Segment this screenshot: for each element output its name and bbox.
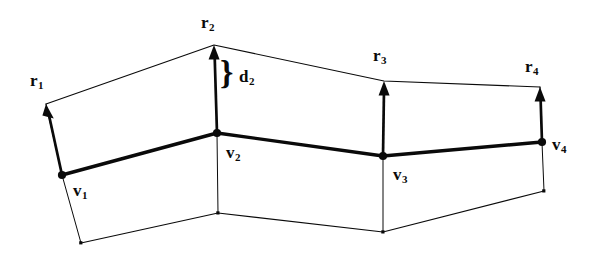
- label-r4-sub: 4: [533, 65, 539, 77]
- vector-shaft-r4: [541, 96, 543, 142]
- bottom-edge-polyline: [81, 191, 544, 243]
- label-v4-base: v: [552, 135, 561, 154]
- label-r1: r1: [30, 72, 44, 91]
- diagram-canvas: [0, 0, 594, 258]
- top-edge-polyline: [46, 45, 540, 104]
- vertex-node-v3: [379, 152, 387, 160]
- label-r3-sub: 3: [381, 54, 387, 66]
- bottom-panel-outline: [81, 191, 544, 243]
- label-r2: r2: [201, 14, 215, 33]
- bold-vertex-polyline: [62, 133, 542, 175]
- top-panel-side-connectors: [46, 87, 542, 175]
- label-d2-sub: 2: [249, 75, 255, 87]
- figure-root: r1 r2 r3 r4 v1 v2 v3 v4 } d2: [0, 0, 594, 258]
- arrowhead-r2-icon: [209, 45, 220, 60]
- label-v2-sub: 2: [235, 151, 241, 163]
- label-r2-base: r: [201, 13, 209, 32]
- vertex-node-v1: [58, 171, 66, 179]
- label-r2-sub: 2: [209, 21, 215, 33]
- label-d2-base: d: [239, 67, 248, 86]
- label-v1-sub: 1: [82, 189, 88, 201]
- brace-d2-icon: }: [220, 56, 233, 90]
- top-panel-outline: [46, 45, 540, 104]
- label-d2: d2: [239, 68, 254, 87]
- vector-shaft-r1: [49, 113, 63, 175]
- label-v4-sub: 4: [561, 143, 567, 155]
- label-r1-base: r: [30, 71, 38, 90]
- arrowhead-r4-icon: [535, 87, 546, 102]
- label-r3-base: r: [373, 46, 381, 65]
- vector-shaft-r2: [215, 54, 217, 133]
- label-v2-base: v: [226, 143, 235, 162]
- point-marker-b3: [381, 230, 384, 233]
- arrowhead-r3-icon: [379, 81, 390, 96]
- label-v1-base: v: [73, 181, 82, 200]
- label-r4: r4: [525, 58, 539, 77]
- vertex-node-v4: [538, 138, 546, 146]
- point-marker-b1: [79, 241, 82, 244]
- label-v4: v4: [552, 136, 567, 155]
- vertex-node-markers: [58, 129, 546, 179]
- label-v2: v2: [226, 144, 241, 163]
- point-marker-b2: [216, 211, 219, 214]
- drop-v4-b4: [542, 142, 544, 191]
- vector-shaft-r3: [383, 90, 384, 156]
- label-v3: v3: [393, 166, 408, 185]
- vector-arrowheads: [42, 45, 545, 118]
- label-v3-sub: 3: [402, 173, 408, 185]
- label-r4-base: r: [525, 57, 533, 76]
- label-v1: v1: [73, 182, 88, 201]
- vertex-node-v2: [213, 129, 221, 137]
- drop-v2-b2: [217, 133, 218, 213]
- arrowhead-r1-icon: [42, 104, 53, 118]
- bold-vertex-polyline-group: [62, 133, 542, 175]
- label-v3-base: v: [393, 165, 402, 184]
- bottom-point-markers: [79, 189, 545, 244]
- point-marker-b4: [542, 189, 545, 192]
- label-r3: r3: [373, 47, 387, 66]
- label-r1-sub: 1: [38, 79, 44, 91]
